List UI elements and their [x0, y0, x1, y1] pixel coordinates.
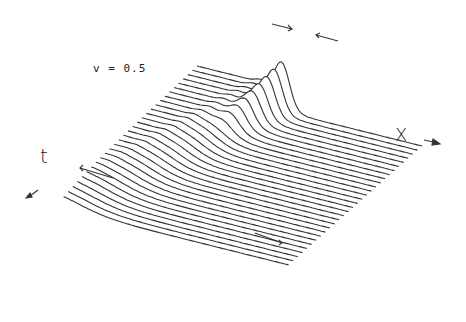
parameter-label: v = 0.5	[93, 62, 146, 75]
arrow-left-icon	[316, 33, 338, 41]
t-axis-label: t	[40, 144, 48, 168]
profile-curves	[64, 62, 422, 271]
x-axis-arrow-icon	[424, 139, 440, 145]
waterfall-plot	[0, 0, 466, 322]
x-axis-label: X	[395, 124, 407, 145]
arrow-right-icon	[272, 24, 292, 31]
t-axis-arrow-icon	[26, 190, 38, 198]
